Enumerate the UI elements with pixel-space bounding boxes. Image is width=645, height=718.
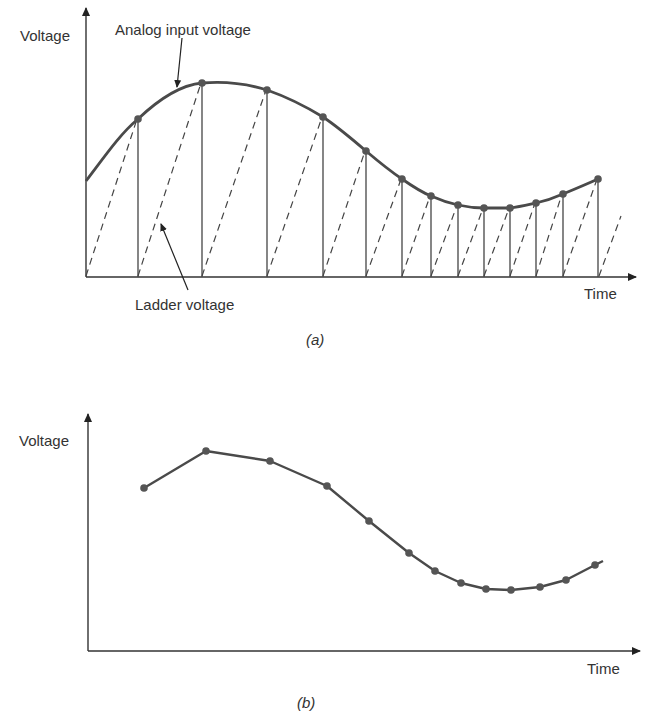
x-axis-label-a: Time	[584, 286, 617, 301]
figure-b	[88, 414, 640, 651]
annotation-arrow-ladder	[161, 224, 188, 290]
annotation-ladder-voltage: Ladder voltage	[135, 297, 234, 312]
diagram-canvas	[0, 0, 645, 718]
caption-a: (a)	[306, 332, 324, 347]
sample-dots-a	[134, 79, 602, 212]
ladder-voltage-ramps	[86, 86, 621, 276]
figure-a	[86, 8, 636, 290]
sample-lines	[138, 83, 598, 277]
x-axis-label-b: Time	[587, 661, 620, 676]
annotation-arrow-curve	[177, 38, 182, 87]
annotation-analog-input-voltage: Analog input voltage	[115, 22, 251, 37]
caption-b: (b)	[297, 695, 315, 710]
analog-input-curve	[86, 82, 598, 208]
y-axis-label-a: Voltage	[20, 28, 70, 43]
y-axis-label-b: Voltage	[19, 433, 69, 448]
reconstructed-voltage-line	[144, 451, 603, 590]
sample-dots-b	[140, 447, 599, 594]
